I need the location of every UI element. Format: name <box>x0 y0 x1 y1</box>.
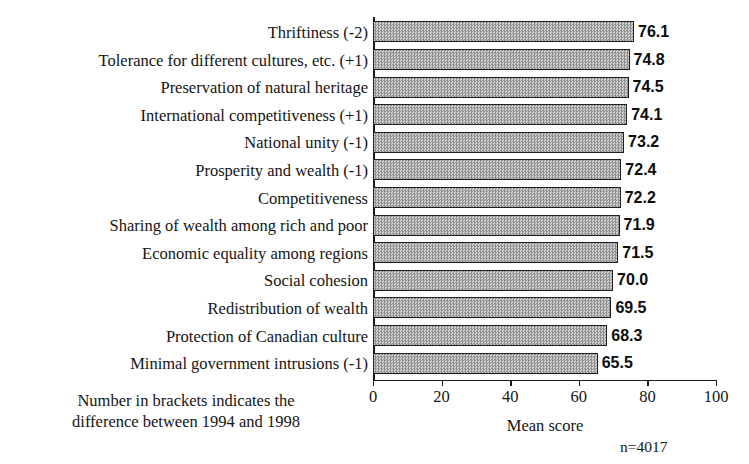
x-axis-tick <box>373 380 374 386</box>
x-axis-tick-label: 80 <box>617 387 677 407</box>
bar-row: 76.1 <box>373 19 716 47</box>
bar <box>373 159 621 180</box>
bar <box>373 187 621 208</box>
footnote-line-2: difference between 1994 and 1998 <box>8 411 364 432</box>
bar-value-label: 71.9 <box>620 213 655 237</box>
bar-row: 65.5 <box>373 350 716 378</box>
category-axis-labels: Thriftiness (-2) Tolerance for different… <box>0 19 371 378</box>
bar-value-label: 72.4 <box>621 158 656 182</box>
x-axis-tick-label: 40 <box>480 387 540 407</box>
category-label: Minimal government intrusions (-1) <box>0 350 371 378</box>
category-label: Preservation of natural heritage <box>0 74 371 102</box>
bar <box>373 49 630 70</box>
category-label: Economic equality among regions <box>0 240 371 268</box>
bar <box>373 353 598 374</box>
bar <box>373 21 634 42</box>
bar-value-label: 70.0 <box>613 268 648 292</box>
x-axis-line <box>373 380 717 382</box>
category-label: Redistribution of wealth <box>0 295 371 323</box>
bar-row: 74.1 <box>373 102 716 130</box>
bar <box>373 297 611 318</box>
x-axis-tick <box>510 380 511 386</box>
x-axis-tick-label: 100 <box>686 387 746 407</box>
x-axis-tick <box>442 380 443 386</box>
bar-row: 71.5 <box>373 240 716 268</box>
bar-value-label: 71.5 <box>618 241 653 265</box>
bar-value-label: 74.1 <box>627 103 662 127</box>
bar-value-label: 69.5 <box>611 296 646 320</box>
category-label: Sharing of wealth among rich and poor <box>0 212 371 240</box>
bar-row: 72.2 <box>373 185 716 213</box>
x-axis-tick-label: 60 <box>549 387 609 407</box>
bar-value-label: 73.2 <box>624 130 659 154</box>
bar <box>373 215 620 236</box>
category-label: International competitiveness (+1) <box>0 102 371 130</box>
category-label: Social cohesion <box>0 267 371 295</box>
category-label: Thriftiness (-2) <box>0 19 371 47</box>
category-label: National unity (-1) <box>0 129 371 157</box>
x-axis-tick <box>647 380 648 386</box>
x-axis-tick <box>716 380 717 386</box>
horizontal-bar-chart: Thriftiness (-2) Tolerance for different… <box>0 0 749 464</box>
category-label: Competitiveness <box>0 185 371 213</box>
bar <box>373 77 629 98</box>
bar-value-label: 74.8 <box>630 48 665 72</box>
bar-row: 72.4 <box>373 157 716 185</box>
bar-value-label: 74.5 <box>629 75 664 99</box>
bar-value-label: 65.5 <box>598 351 633 375</box>
bar-value-label: 76.1 <box>634 20 669 44</box>
category-label: Prosperity and wealth (-1) <box>0 157 371 185</box>
bar <box>373 104 627 125</box>
bar <box>373 325 607 346</box>
plot-area: 76.1 74.8 74.5 74.1 73.2 72.4 72.2 71.9 <box>373 19 716 378</box>
bar-row: 69.5 <box>373 295 716 323</box>
x-axis-title: Mean score <box>373 416 717 436</box>
bar-row: 70.0 <box>373 267 716 295</box>
x-axis-tick <box>579 380 580 386</box>
bar-row: 71.9 <box>373 212 716 240</box>
bar <box>373 270 613 291</box>
bar-value-label: 72.2 <box>621 186 656 210</box>
bar <box>373 132 624 153</box>
footnote-line-1: Number in brackets indicates the <box>8 390 364 411</box>
bar-row: 73.2 <box>373 129 716 157</box>
bar <box>373 242 618 263</box>
category-label: Tolerance for different cultures, etc. (… <box>0 47 371 75</box>
bar-value-label: 68.3 <box>607 324 642 348</box>
bar-row: 74.5 <box>373 74 716 102</box>
x-axis-tick-label: 20 <box>412 387 472 407</box>
bar-row: 68.3 <box>373 323 716 351</box>
category-label: Protection of Canadian culture <box>0 323 371 351</box>
sample-size-label: n=4017 <box>620 438 668 456</box>
bar-row: 74.8 <box>373 47 716 75</box>
chart-footnote: Number in brackets indicates the differe… <box>8 390 364 432</box>
